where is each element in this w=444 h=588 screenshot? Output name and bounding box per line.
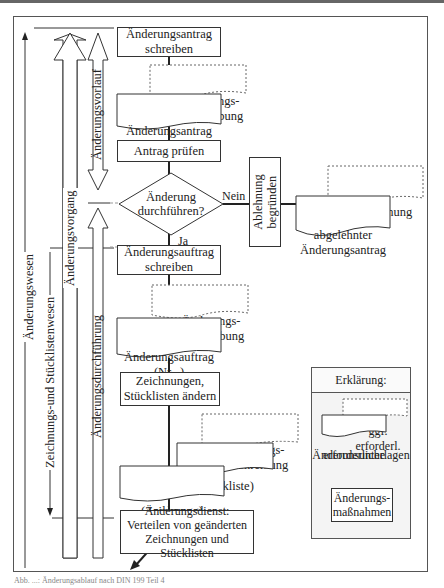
legend-title: Erklärung: [312,368,410,393]
step-zeichnungen-stuecklisten-aendern: Zeichnungen, Stücklisten ändern [120,372,220,406]
doc-aenderungsbeschreibung-2: Änderungs- beschreibung [152,285,248,319]
flow-line [168,404,170,472]
label-aenderungsdurchfuehrung: Änderungsdurchführung [90,313,105,440]
doc-zeichnung: (Zeichnung) [120,466,224,502]
decision-text: Änderung durchführen? [118,190,224,218]
step-aenderungsdienst: Änderungsdienst: Verteilen von geänderte… [120,510,254,554]
label-aenderungsvorlauf: Änderungsvorlauf [90,67,105,162]
decision-no-label: Nein [222,189,245,204]
step-ablehnung-begruenden: Ablehnung begründen [249,157,281,247]
label-zeichnungs-stuecklistenwesen: Zeichnungs-und Stücklistenwesen [43,295,58,470]
figure-caption: Abb. ...: Änderungsablauf nach DIN 199 T… [14,576,165,585]
label-aenderungsvorgang: Änderungsvorgang [63,188,78,288]
step-aenderungsantrag-schreiben: Änderungsantrag schreiben [117,27,221,57]
legend-box: Erklärung: ggf. erforderl. erforderliche… [311,367,411,539]
step-aenderungsauftrag-schreiben: Änderungsauftrag schreiben [117,245,221,275]
reject-line [281,203,297,205]
legend-measures-box: Änderungs- maßnahmen [331,488,393,522]
doc-aenderungsauftrag-nr: Änderungsauftrag (Nr...) [117,318,221,358]
step-antrag-pruefen: Antrag prüfen [117,140,221,162]
legend-required-doc: erforderliche [322,415,386,437]
label-aenderungswesen: Änderungswesen [22,252,37,342]
legend-documents-label: Änderunsunterlagen [312,448,410,463]
doc-abgelehnter-aenderungsantrag: abgelehnter Änderungsantrag [296,196,390,236]
doc-aenderungsantrag-nr: Änderungsantrag (Nr...) [117,94,221,130]
